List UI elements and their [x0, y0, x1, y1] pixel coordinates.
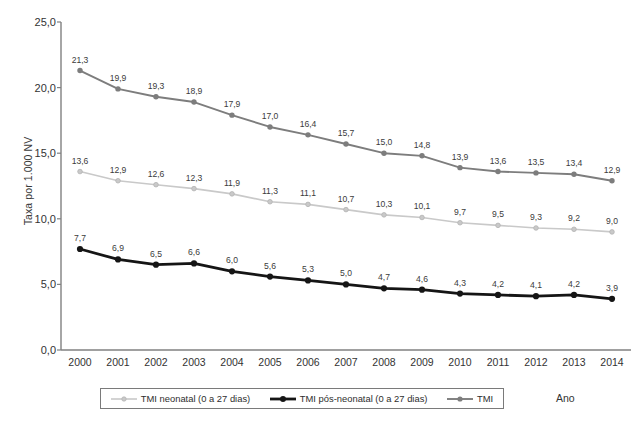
point-value-label: 17,9 [212, 99, 252, 109]
series-marker [305, 132, 310, 137]
series-marker [533, 293, 539, 299]
series-marker [192, 186, 197, 191]
point-value-label: 5,3 [288, 264, 328, 274]
series-marker [344, 207, 349, 212]
point-value-label: 6,0 [212, 255, 252, 265]
series-marker [153, 262, 159, 268]
series-marker [457, 290, 463, 296]
point-value-label: 12,9 [592, 165, 632, 175]
legend-label: TMI [477, 393, 493, 404]
series-marker [419, 287, 425, 293]
point-value-label: 12,3 [174, 173, 214, 183]
series-marker [571, 292, 577, 298]
point-value-label: 12,9 [98, 165, 138, 175]
legend-marker-icon [270, 394, 296, 404]
series-marker [381, 285, 387, 291]
point-value-label: 4,3 [440, 278, 480, 288]
series-marker [458, 220, 463, 225]
legend-label: TMI neonatal (0 a 27 dias) [141, 393, 250, 404]
point-value-label: 10,1 [402, 201, 442, 211]
y-tick-label: 5,0 [16, 278, 56, 290]
point-value-label: 19,9 [98, 73, 138, 83]
legend-marker-icon [447, 394, 473, 404]
series-marker [495, 169, 500, 174]
series-marker [153, 94, 158, 99]
series-marker [116, 178, 121, 183]
series-marker [77, 246, 83, 252]
point-value-label: 16,4 [288, 119, 328, 129]
point-value-label: 6,5 [136, 249, 176, 259]
series-marker [610, 230, 615, 235]
point-value-label: 10,3 [364, 199, 404, 209]
y-tick-label: 15,0 [16, 147, 56, 159]
chart-legend: TMI neonatal (0 a 27 dias) TMI pós-neona… [100, 388, 504, 409]
point-value-label: 17,0 [250, 111, 290, 121]
point-value-label: 13,4 [554, 158, 594, 168]
series-marker [267, 273, 273, 279]
series-marker [496, 223, 501, 228]
point-value-label: 15,0 [364, 137, 404, 147]
series-marker [609, 296, 615, 302]
series-marker [343, 281, 349, 287]
series-marker [115, 86, 120, 91]
point-value-label: 11,9 [212, 178, 252, 188]
series-marker [495, 292, 501, 298]
series-marker [267, 124, 272, 129]
series-marker [534, 226, 539, 231]
series-marker [420, 215, 425, 220]
point-value-label: 21,3 [60, 55, 100, 65]
point-value-label: 9,3 [516, 212, 556, 222]
series-marker [343, 141, 348, 146]
series-marker [115, 256, 121, 262]
point-value-label: 5,0 [326, 268, 366, 278]
point-value-label: 4,2 [478, 279, 518, 289]
legend-marker-icon [111, 394, 137, 404]
series-marker [609, 178, 614, 183]
series-marker [78, 169, 83, 174]
point-value-label: 4,6 [402, 274, 442, 284]
y-tick-label: 20,0 [16, 82, 56, 94]
y-tick-label: 0,0 [16, 344, 56, 356]
series-marker [154, 182, 159, 187]
point-value-label: 9,0 [592, 216, 632, 226]
series-marker [572, 227, 577, 232]
series-marker [191, 99, 196, 104]
point-value-label: 12,6 [136, 169, 176, 179]
series-marker [77, 68, 82, 73]
series-marker [381, 151, 386, 156]
series-marker [571, 171, 576, 176]
series-marker [382, 213, 387, 218]
series-marker [533, 170, 538, 175]
point-value-label: 6,9 [98, 243, 138, 253]
legend-item-tmi-pos-neonatal[interactable]: TMI pós-neonatal (0 a 27 dias) [270, 393, 428, 404]
point-value-label: 10,7 [326, 194, 366, 204]
point-value-label: 15,7 [326, 128, 366, 138]
line-chart: Taxa por 1.000 NV 0,05,010,015,020,025,0… [0, 0, 643, 421]
x-tick-label: 2014 [590, 356, 634, 368]
series-marker [305, 277, 311, 283]
series-marker [229, 268, 235, 274]
point-value-label: 9,7 [440, 207, 480, 217]
point-value-label: 3,9 [592, 283, 632, 293]
point-value-label: 9,5 [478, 209, 518, 219]
legend-label: TMI pós-neonatal (0 a 27 dias) [300, 393, 428, 404]
y-tick-label: 10,0 [16, 213, 56, 225]
point-value-label: 4,2 [554, 279, 594, 289]
point-value-label: 6,6 [174, 247, 214, 257]
point-value-label: 9,2 [554, 213, 594, 223]
series-marker [306, 202, 311, 207]
point-value-label: 11,3 [250, 186, 290, 196]
point-value-label: 7,7 [60, 233, 100, 243]
series-marker [268, 199, 273, 204]
point-value-label: 13,5 [516, 157, 556, 167]
legend-item-tmi[interactable]: TMI [447, 393, 493, 404]
point-value-label: 4,7 [364, 272, 404, 282]
series-marker [457, 165, 462, 170]
point-value-label: 13,6 [60, 156, 100, 166]
series-marker [419, 153, 424, 158]
y-axis-title: Taxa por 1.000 NV [22, 111, 34, 251]
y-tick-label: 25,0 [16, 16, 56, 28]
legend-item-tmi-neonatal[interactable]: TMI neonatal (0 a 27 dias) [111, 393, 250, 404]
point-value-label: 13,6 [478, 156, 518, 166]
point-value-label: 19,3 [136, 81, 176, 91]
